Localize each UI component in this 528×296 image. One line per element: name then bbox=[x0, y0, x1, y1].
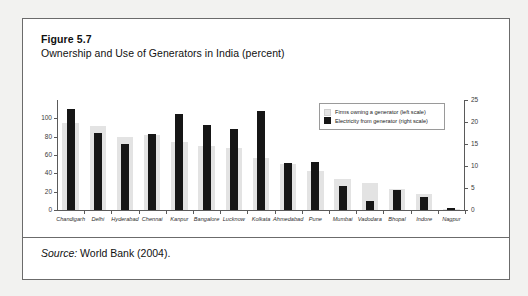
bar-electricity-from-generator bbox=[175, 114, 183, 210]
source-text: World Bank (2004). bbox=[77, 247, 170, 259]
x-tick-mark bbox=[220, 211, 221, 214]
source-note: Source: World Bank (2004). bbox=[41, 247, 170, 259]
figure-title: Ownership and Use of Generators in India… bbox=[41, 47, 285, 59]
chart-legend: Firms owning a generator (left scale) El… bbox=[319, 103, 445, 130]
left-tick-label: 100 bbox=[37, 115, 52, 122]
x-axis-label: Nagpur bbox=[442, 217, 460, 223]
bar-electricity-from-generator bbox=[230, 129, 238, 210]
x-tick-mark bbox=[383, 211, 384, 214]
bar-group bbox=[90, 100, 106, 210]
right-tick-label: 10 bbox=[471, 163, 487, 170]
source-divider bbox=[23, 237, 509, 238]
right-tick-label: 20 bbox=[471, 119, 487, 126]
bar-group bbox=[443, 100, 459, 210]
bar-electricity-from-generator bbox=[311, 162, 319, 210]
legend-label-firms: Firms owning a generator (left scale) bbox=[335, 109, 426, 115]
bar-electricity-from-generator bbox=[257, 111, 265, 210]
bar-electricity-from-generator bbox=[148, 134, 156, 210]
right-tick-mark bbox=[465, 166, 468, 167]
x-axis-line bbox=[57, 210, 465, 211]
bar-electricity-from-generator bbox=[447, 208, 455, 210]
x-tick-mark bbox=[193, 211, 194, 214]
plot-area: 020406080100 0510152025 ChandigarhDelhiH… bbox=[23, 59, 511, 234]
left-tick-label: 20 bbox=[37, 189, 52, 196]
bar-group bbox=[198, 100, 214, 210]
right-tick-mark bbox=[465, 188, 468, 189]
x-axis-label: Bhopal bbox=[388, 217, 405, 223]
left-tick-mark bbox=[54, 210, 57, 211]
x-tick-mark bbox=[438, 211, 439, 214]
x-tick-mark bbox=[139, 211, 140, 214]
bar-group bbox=[280, 100, 296, 210]
x-tick-mark bbox=[411, 211, 412, 214]
x-tick-mark bbox=[275, 211, 276, 214]
screenshot-root: Figure 5.7 Ownership and Use of Generato… bbox=[0, 0, 528, 296]
left-tick-label: 80 bbox=[37, 134, 52, 141]
x-tick-mark bbox=[111, 211, 112, 214]
legend-swatch-black-icon bbox=[324, 117, 331, 124]
figure-number: Figure 5.7 bbox=[41, 33, 92, 45]
x-axis-label: Chennai bbox=[142, 217, 163, 223]
legend-swatch-gray-icon bbox=[324, 109, 331, 116]
bar-electricity-from-generator bbox=[67, 109, 75, 210]
bar-group bbox=[171, 100, 187, 210]
x-axis-label: Chandigarh bbox=[56, 217, 85, 223]
bar-electricity-from-generator bbox=[393, 190, 401, 210]
bar-electricity-from-generator bbox=[284, 163, 292, 210]
x-tick-mark bbox=[465, 211, 466, 214]
x-axis-label: Pune bbox=[309, 217, 322, 223]
x-axis-label: Bangalore bbox=[194, 217, 220, 223]
x-axis-label: Indore bbox=[416, 217, 432, 223]
figure-container: Figure 5.7 Ownership and Use of Generato… bbox=[22, 18, 510, 280]
bar-group bbox=[62, 100, 78, 210]
right-tick-mark bbox=[465, 144, 468, 145]
bar-electricity-from-generator bbox=[203, 125, 211, 210]
legend-label-electricity: Electricity from generator (right scale) bbox=[335, 118, 428, 124]
right-tick-label: 25 bbox=[471, 97, 487, 104]
bar-electricity-from-generator bbox=[94, 133, 102, 210]
source-prefix: Source: bbox=[41, 247, 77, 259]
x-axis-label: Hyderabad bbox=[111, 217, 138, 223]
x-tick-mark bbox=[329, 211, 330, 214]
x-axis-label: Lucknow bbox=[223, 217, 245, 223]
bar-electricity-from-generator bbox=[339, 186, 347, 210]
right-tick-label: 5 bbox=[471, 185, 487, 192]
x-tick-mark bbox=[84, 211, 85, 214]
bar-electricity-from-generator bbox=[121, 144, 129, 210]
bar-group bbox=[253, 100, 269, 210]
x-axis-label: Vadodara bbox=[358, 217, 382, 223]
x-tick-mark bbox=[247, 211, 248, 214]
bar-group bbox=[144, 100, 160, 210]
x-axis-label: Mumbai bbox=[333, 217, 353, 223]
left-tick-label: 0 bbox=[37, 207, 52, 214]
x-tick-mark bbox=[166, 211, 167, 214]
left-tick-label: 40 bbox=[37, 170, 52, 177]
bar-electricity-from-generator bbox=[420, 197, 428, 210]
left-tick-label: 60 bbox=[37, 152, 52, 159]
legend-item-firms: Firms owning a generator (left scale) bbox=[324, 109, 440, 116]
bar-electricity-from-generator bbox=[366, 201, 374, 210]
bar-group bbox=[117, 100, 133, 210]
legend-item-electricity: Electricity from generator (right scale) bbox=[324, 117, 440, 124]
right-tick-mark bbox=[465, 122, 468, 123]
x-tick-mark bbox=[302, 211, 303, 214]
right-tick-label: 15 bbox=[471, 141, 487, 148]
right-tick-mark bbox=[465, 100, 468, 101]
right-tick-label: 0 bbox=[471, 207, 487, 214]
x-axis-label: Ahmedabad bbox=[273, 217, 303, 223]
x-axis-label: Kanpur bbox=[170, 217, 188, 223]
x-tick-mark bbox=[356, 211, 357, 214]
bar-group bbox=[226, 100, 242, 210]
x-axis-label: Delhi bbox=[91, 217, 104, 223]
x-axis-label: Kolkata bbox=[252, 217, 271, 223]
